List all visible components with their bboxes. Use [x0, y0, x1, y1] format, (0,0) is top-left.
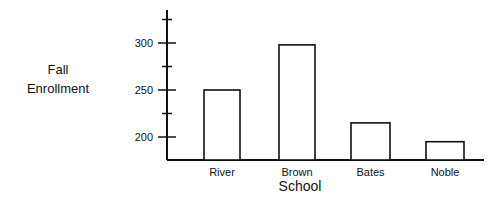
x-tick-label: Noble: [431, 166, 460, 178]
y-tick-label: 250: [135, 84, 153, 96]
y-tick-label: 200: [135, 131, 153, 143]
bar-bates: [351, 123, 390, 160]
bar-river: [204, 90, 240, 160]
bar-noble: [426, 142, 464, 160]
x-tick-label: Bates: [356, 166, 385, 178]
y-tick-label: 300: [135, 37, 153, 49]
x-tick-label: Brown: [281, 166, 312, 178]
x-tick-label: River: [209, 166, 235, 178]
bar-chart: 200250300RiverBrownBatesNoble: [0, 0, 501, 207]
bar-brown: [279, 45, 315, 160]
